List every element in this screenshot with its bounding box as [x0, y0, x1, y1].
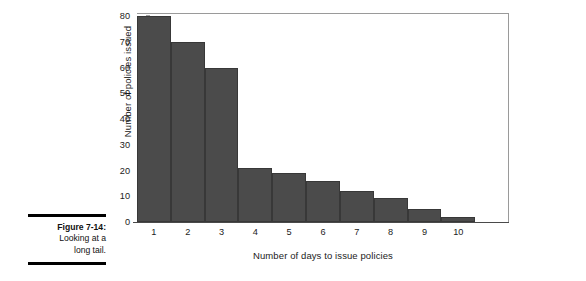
y-axis-tick-label: 10	[120, 191, 130, 201]
bar	[171, 42, 205, 222]
y-axis-tick-label: 30	[120, 140, 130, 150]
x-axis-tick-label: 3	[219, 227, 224, 237]
y-axis-tick-labels: 01020304050607080	[110, 16, 130, 222]
bar	[408, 209, 442, 222]
plot-area	[137, 16, 509, 222]
y-axis-tick-label: 60	[120, 63, 130, 73]
x-axis-tick-label: 6	[320, 227, 325, 237]
x-axis-tick-label: 9	[422, 227, 427, 237]
x-axis-tick-label: 5	[287, 227, 292, 237]
x-axis-tick-label: 1	[151, 227, 156, 237]
bar-chart-figure: Number of policies issued 01020304050607…	[96, 0, 586, 281]
x-axis-origin-tick	[133, 222, 137, 223]
caption-line-1: Looking at a	[14, 233, 106, 244]
figure-number: Figure 7-14:	[14, 222, 106, 233]
bar	[340, 191, 374, 222]
x-axis-tick-label: 4	[253, 227, 258, 237]
figure-caption-text: Figure 7-14: Looking at a long tail.	[14, 222, 106, 256]
y-axis-tick-label: 0	[125, 217, 130, 227]
y-axis-tick-label: 20	[120, 166, 130, 176]
x-axis-tick-label: 10	[453, 227, 463, 237]
x-axis-tick-label: 2	[185, 227, 190, 237]
y-axis-tick-label: 70	[120, 37, 130, 47]
bar	[238, 168, 272, 222]
bar	[205, 68, 239, 223]
y-axis-tick-label: 40	[120, 114, 130, 124]
figure-caption-block: Figure 7-14: Looking at a long tail.	[14, 214, 106, 265]
bar	[137, 16, 171, 222]
y-axis-tick-label: 80	[120, 11, 130, 21]
x-axis-tick-labels: 12345678910	[137, 227, 509, 241]
x-axis-title: Number of days to issue policies	[137, 250, 509, 261]
bar	[272, 173, 306, 222]
caption-line-2: long tail.	[14, 245, 106, 256]
caption-rule-bottom	[28, 262, 106, 265]
x-axis-tick-label: 7	[354, 227, 359, 237]
y-axis-tick-label: 50	[120, 88, 130, 98]
bar	[374, 198, 408, 222]
x-axis-line	[137, 222, 509, 223]
x-axis-tick-label: 8	[388, 227, 393, 237]
bar	[306, 181, 340, 222]
caption-rule-top	[28, 214, 106, 217]
